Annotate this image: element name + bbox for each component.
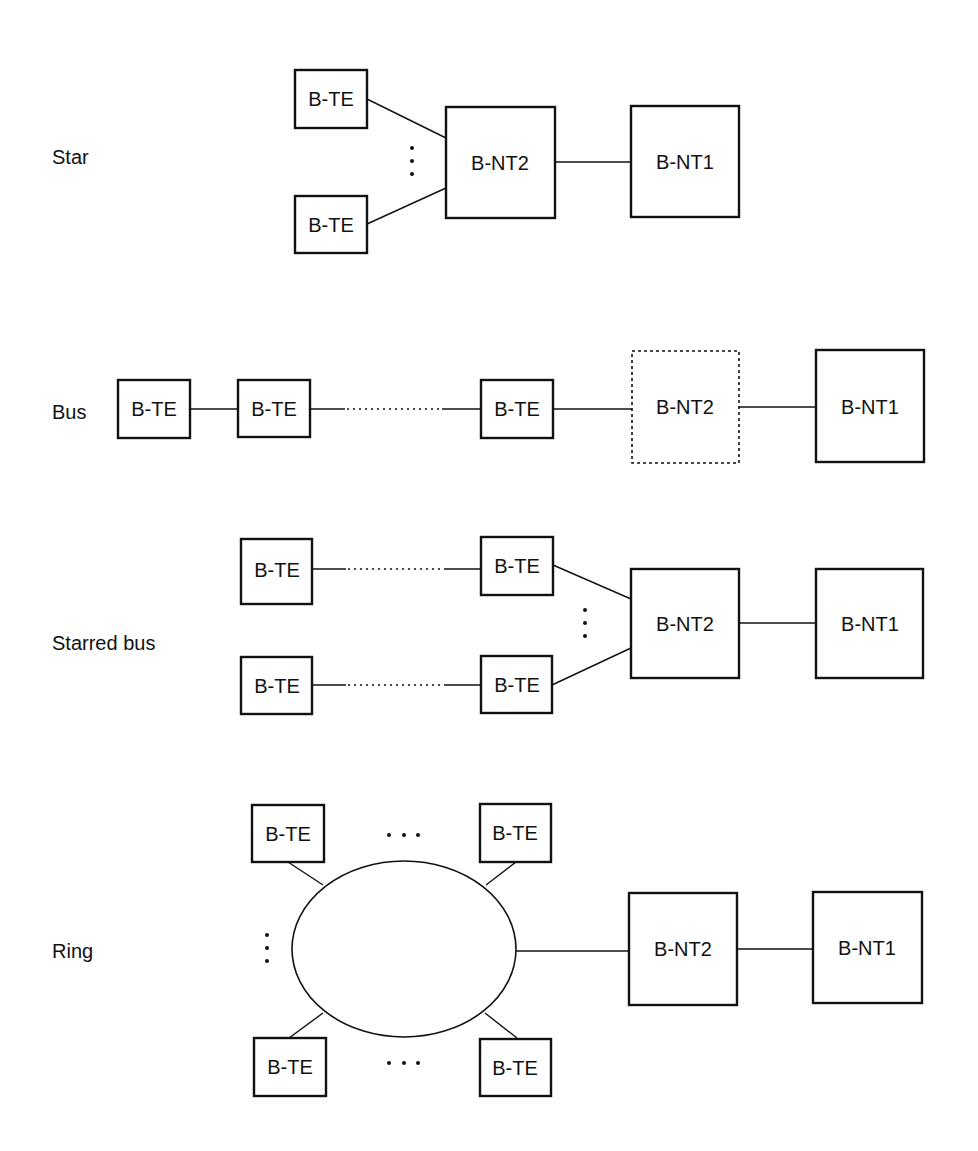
starred-bus-link-top: [553, 565, 631, 599]
svg-text:B-TE: B-TE: [492, 1057, 538, 1079]
starred-bus-topology: Starred bus B-TE B-TE B-TE: [52, 537, 923, 714]
svg-text:B-NT1: B-NT1: [656, 151, 714, 173]
star-nt1: B-NT1: [631, 106, 739, 217]
starred-bus-te-top-left: B-TE: [241, 539, 312, 604]
svg-text:B-NT2: B-NT2: [656, 613, 714, 635]
svg-text:B-NT1: B-NT1: [841, 613, 899, 635]
ring-stub-bottom-right: [485, 1013, 517, 1038]
ring-label: Ring: [52, 940, 93, 962]
svg-text:B-TE: B-TE: [308, 214, 354, 236]
svg-text:B-NT2: B-NT2: [471, 152, 529, 174]
svg-text:B-NT1: B-NT1: [841, 396, 899, 418]
star-te-bottom: B-TE: [295, 196, 367, 253]
bus-topology: Bus B-TE B-TE B-TE B-NT2 B-NT1: [52, 350, 924, 463]
ellipsis-horizontal-icon: [387, 1061, 420, 1065]
ellipsis-vertical-icon: [265, 933, 269, 963]
svg-text:B-TE: B-TE: [494, 555, 540, 577]
star-nt2: B-NT2: [446, 107, 555, 218]
star-topology: Star B-TE B-TE B-NT2 B-NT1: [52, 70, 739, 253]
bus-nt2-optional: B-NT2: [632, 351, 739, 463]
ring-topology: Ring B-TE B-TE: [52, 804, 922, 1096]
ring-stub-top-left: [288, 862, 323, 885]
starred-bus-te-top-right: B-TE: [481, 537, 553, 595]
ring-nt1: B-NT1: [813, 892, 922, 1003]
bus-nt1: B-NT1: [816, 350, 924, 462]
ellipsis-vertical-icon: [583, 608, 587, 638]
star-link-top: [367, 99, 446, 138]
bus-te-2: B-TE: [238, 380, 310, 437]
bus-label: Bus: [52, 401, 86, 423]
svg-text:B-TE: B-TE: [265, 823, 311, 845]
ring-nt2: B-NT2: [629, 893, 737, 1005]
svg-text:B-TE: B-TE: [308, 88, 354, 110]
ring-te-top-right: B-TE: [480, 804, 551, 862]
svg-text:B-TE: B-TE: [267, 1056, 313, 1078]
starred-bus-nt2: B-NT2: [631, 569, 739, 678]
ring-ellipse: [292, 861, 516, 1037]
svg-text:B-TE: B-TE: [131, 398, 177, 420]
bus-te-1: B-TE: [118, 380, 190, 438]
ring-te-bottom-left: B-TE: [254, 1038, 326, 1096]
starred-bus-te-bottom-right: B-TE: [481, 656, 552, 713]
svg-text:B-NT2: B-NT2: [656, 396, 714, 418]
starred-bus-te-bottom-left: B-TE: [241, 657, 312, 714]
ellipsis-horizontal-icon: [387, 833, 420, 837]
network-topologies-diagram: Star B-TE B-TE B-NT2 B-NT1 Bus: [0, 0, 978, 1151]
ellipsis-vertical-icon: [410, 146, 414, 176]
starred-bus-label: Starred bus: [52, 632, 155, 654]
svg-text:B-TE: B-TE: [494, 674, 540, 696]
svg-text:B-TE: B-TE: [251, 398, 297, 420]
star-te-top: B-TE: [295, 70, 367, 128]
bus-te-3: B-TE: [481, 380, 553, 438]
star-link-bottom: [367, 188, 446, 224]
ring-stub-bottom-left: [289, 1013, 323, 1038]
ring-te-bottom-right: B-TE: [480, 1039, 551, 1096]
ring-te-top-left: B-TE: [252, 805, 324, 862]
star-label: Star: [52, 146, 89, 168]
starred-bus-link-bottom: [552, 648, 631, 685]
svg-text:B-TE: B-TE: [492, 822, 538, 844]
svg-text:B-NT1: B-NT1: [838, 937, 896, 959]
svg-text:B-TE: B-TE: [254, 675, 300, 697]
ring-stub-top-right: [486, 862, 516, 885]
svg-text:B-TE: B-TE: [254, 559, 300, 581]
starred-bus-nt1: B-NT1: [816, 569, 923, 678]
svg-text:B-TE: B-TE: [494, 398, 540, 420]
svg-text:B-NT2: B-NT2: [654, 938, 712, 960]
